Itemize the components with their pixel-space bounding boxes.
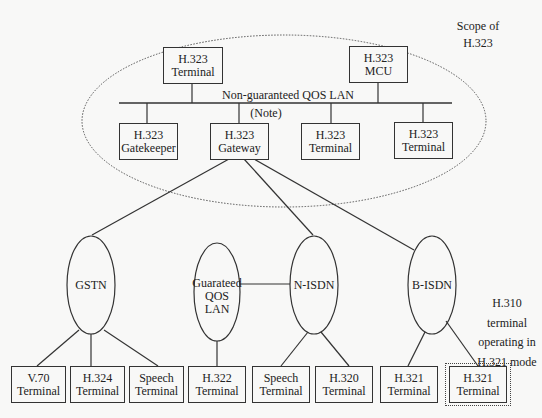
speech-terminal-nisdn: Speech Terminal	[252, 366, 310, 403]
scope-label: Scope of H.323	[443, 19, 513, 51]
note-label: (Note)	[244, 106, 288, 121]
b-isdn-label: B-ISDN	[412, 279, 452, 292]
gstn-label: GSTN	[75, 279, 106, 292]
h323-gatekeeper: H.323 Gatekeeper	[119, 123, 178, 160]
h321-terminal-h310-mode: H.321 Terminal	[449, 366, 507, 403]
speech-terminal-gstn: Speech Terminal	[129, 366, 184, 403]
h323-terminal-right: H.323 Terminal	[394, 122, 453, 159]
connection-lines	[0, 0, 542, 418]
h323-mcu: H.323 MCU	[349, 46, 408, 83]
n-isdn-label: N-ISDN	[294, 279, 335, 292]
guaranteed-qos-lan-label: Guarateed QOS LAN	[192, 277, 241, 316]
v70-terminal: V.70 Terminal	[11, 366, 66, 403]
h323-gateway: H.323 Gateway	[210, 123, 269, 160]
h323-terminal-top: H.323 Terminal	[163, 47, 223, 84]
h320-terminal: H.320 Terminal	[315, 366, 373, 403]
h323-scope-ellipse	[82, 35, 486, 207]
h324-terminal: H.324 Terminal	[70, 366, 125, 403]
h323-terminal-mid: H.323 Terminal	[301, 123, 360, 160]
h323-system-diagram: Scope of H.323 Non-guaranteed QOS LAN (N…	[0, 0, 542, 418]
h321-terminal: H.321 Terminal	[380, 366, 438, 403]
h310-note: H.310 terminal operating in H.321 mode	[472, 294, 542, 372]
h322-terminal: H.322 Terminal	[188, 366, 246, 403]
lan-label: Non-guaranteed QOS LAN	[220, 88, 356, 103]
